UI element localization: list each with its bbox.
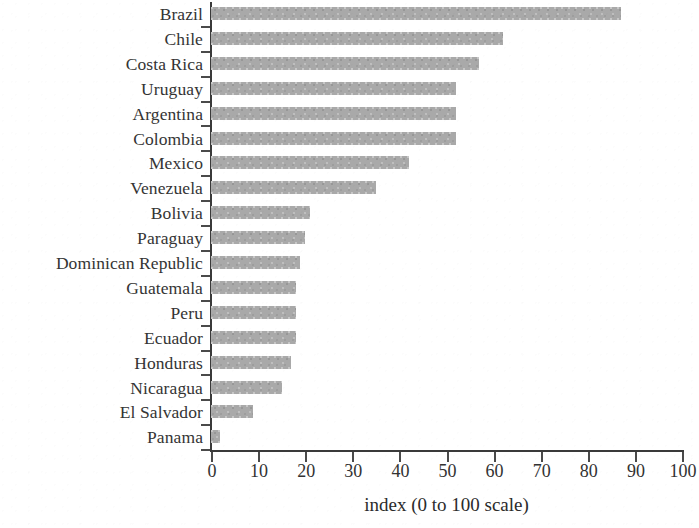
bar [211,107,456,120]
y-axis-tick [201,424,210,426]
bar [211,82,456,95]
bar-chart: BrazilChileCosta RicaUruguayArgentinaCol… [0,0,699,528]
y-axis-tick [201,125,210,127]
bar [211,356,291,369]
y-axis-label: El Salvador [0,400,203,425]
bar [211,381,282,394]
y-axis-label: Nicaragua [0,376,203,401]
x-axis-tick-label: 100 [653,461,699,482]
y-axis-label: Venezuela [0,176,203,201]
bar-row [211,151,682,176]
bar [211,156,409,169]
bar-row [211,102,682,127]
y-axis-label: Argentina [0,102,203,127]
y-axis-label: Uruguay [0,77,203,102]
y-axis-tick [201,374,210,376]
y-axis-tick [201,325,210,327]
y-axis-label: Panama [0,425,203,450]
bar-row [211,226,682,251]
bar-row [211,127,682,152]
y-axis-category-labels: BrazilChileCosta RicaUruguayArgentinaCol… [0,2,203,450]
y-axis-label: Dominican Republic [0,251,203,276]
y-axis-tick [201,300,210,302]
y-axis-tick [201,399,210,401]
y-axis-tick [201,250,210,252]
y-axis-tick [201,76,210,78]
bar-row [211,376,682,401]
bar [211,256,300,269]
y-axis-tick [201,275,210,277]
bar [211,7,621,20]
y-axis-tick [201,51,210,53]
bar-row [211,176,682,201]
y-axis-label: Honduras [0,351,203,376]
bar-row [211,52,682,77]
y-axis-label: Costa Rica [0,52,203,77]
y-axis-label: Colombia [0,127,203,152]
bar-row [211,301,682,326]
y-axis-tick [201,350,210,352]
y-axis-label: Peru [0,301,203,326]
bar-row [211,251,682,276]
bar-row [211,400,682,425]
bar [211,231,305,244]
bar-row [211,2,682,27]
y-axis-tick [201,101,210,103]
bar-row [211,77,682,102]
y-axis-label: Bolivia [0,201,203,226]
plot-area [211,2,682,450]
bar [211,281,296,294]
bar [211,430,220,443]
bar-row [211,276,682,301]
y-axis-tick [201,449,210,451]
y-axis-tick [201,26,210,28]
bar [211,57,479,70]
y-axis-label: Paraguay [0,226,203,251]
bar [211,405,253,418]
bar [211,331,296,344]
y-axis-tick [201,175,210,177]
bar [211,206,310,219]
y-axis-tick [201,150,210,152]
y-axis-label: Ecuador [0,326,203,351]
bar [211,181,376,194]
bar [211,306,296,319]
y-axis-tick [201,225,210,227]
y-axis-label: Guatemala [0,276,203,301]
y-axis-label: Mexico [0,151,203,176]
bar [211,132,456,145]
bar-row [211,351,682,376]
bar-row [211,326,682,351]
bar-row [211,425,682,450]
y-axis-label: Chile [0,27,203,52]
y-axis-label: Brazil [0,2,203,27]
bar-row [211,201,682,226]
y-axis-tick [201,200,210,202]
bar-row [211,27,682,52]
x-axis-title: index (0 to 100 scale) [211,494,682,516]
bar [211,32,503,45]
